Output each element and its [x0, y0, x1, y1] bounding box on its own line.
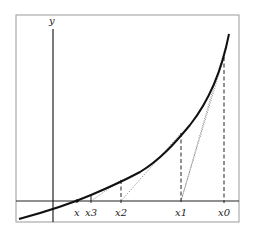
function-curve: [19, 34, 229, 219]
label-x1: x1: [175, 207, 187, 218]
newton-method-diagram: y x x3 x2 x1 x0: [0, 0, 254, 239]
label-x3: x3: [85, 207, 97, 218]
root-point: [75, 199, 79, 203]
tangent-lines: [77, 34, 229, 201]
frame: [16, 15, 239, 222]
label-x: x: [74, 207, 80, 218]
label-x2: x2: [115, 207, 127, 218]
vertical-guides: [121, 57, 224, 203]
y-axis-label: y: [48, 15, 55, 26]
label-x0: x0: [218, 207, 231, 218]
